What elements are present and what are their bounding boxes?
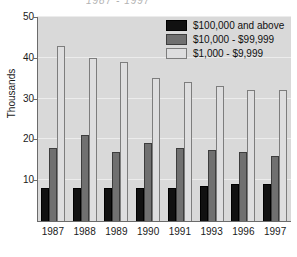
bar-group — [136, 17, 160, 221]
bar[interactable] — [239, 152, 247, 221]
y-tick-label: 10 — [8, 175, 34, 185]
bar[interactable] — [168, 188, 176, 221]
bar-group — [41, 17, 65, 221]
x-tick-label: 1993 — [197, 226, 227, 237]
legend-item[interactable]: $10,000 - $99,999 — [166, 34, 284, 45]
legend-label: $100,000 and above — [193, 20, 284, 31]
legend-swatch — [166, 20, 187, 31]
legend-swatch — [166, 34, 187, 45]
y-tick-mark — [33, 139, 37, 140]
bar-chart-figure: 1987 - 1997 1020304050 Thousands 1987198… — [0, 0, 297, 257]
bar[interactable] — [120, 62, 128, 221]
legend-swatch — [166, 48, 187, 59]
y-tick-mark — [33, 58, 37, 59]
x-axis-line — [37, 221, 291, 222]
y-tick-mark — [33, 180, 37, 181]
x-axis-ticks: 19871988198919901991199319961997 — [37, 226, 291, 237]
bar[interactable] — [279, 90, 287, 221]
bar[interactable] — [89, 58, 97, 221]
bar-group — [73, 17, 97, 221]
legend-label: $1,000 - $9,999 — [193, 48, 263, 59]
x-tick-label: 1987 — [38, 226, 68, 237]
bar[interactable] — [216, 86, 224, 221]
x-tick-label: 1989 — [101, 226, 131, 237]
x-tick-label: 1997 — [260, 226, 290, 237]
bar[interactable] — [73, 188, 81, 221]
bar[interactable] — [200, 186, 208, 221]
bar[interactable] — [57, 46, 65, 221]
bar[interactable] — [184, 82, 192, 221]
bar[interactable] — [49, 148, 57, 221]
bar[interactable] — [271, 156, 279, 221]
bar[interactable] — [112, 152, 120, 221]
bar[interactable] — [263, 184, 271, 221]
bar[interactable] — [136, 188, 144, 221]
bar[interactable] — [104, 188, 112, 221]
y-tick-mark — [33, 17, 37, 18]
bar[interactable] — [176, 148, 184, 221]
y-axis-line — [37, 17, 38, 222]
y-tick-label: 20 — [8, 134, 34, 144]
legend: $100,000 and above$10,000 - $99,999$1,00… — [166, 20, 284, 59]
bar[interactable] — [152, 78, 160, 221]
bar[interactable] — [81, 135, 89, 221]
x-tick-label: 1991 — [165, 226, 195, 237]
clipped-title-remnant: 1987 - 1997 — [86, 0, 216, 4]
bar[interactable] — [208, 150, 216, 221]
y-axis-title: Thousands — [6, 54, 17, 134]
x-tick-label: 1988 — [70, 226, 100, 237]
y-tick-mark — [33, 99, 37, 100]
y-tick-label: 50 — [8, 12, 34, 22]
bar[interactable] — [231, 184, 239, 221]
bar[interactable] — [247, 90, 255, 221]
bar[interactable] — [41, 188, 49, 221]
x-tick-label: 1996 — [228, 226, 258, 237]
x-tick-label: 1990 — [133, 226, 163, 237]
bar-group — [104, 17, 128, 221]
bar[interactable] — [144, 143, 152, 221]
legend-item[interactable]: $1,000 - $9,999 — [166, 48, 284, 59]
legend-label: $10,000 - $99,999 — [193, 34, 274, 45]
legend-item[interactable]: $100,000 and above — [166, 20, 284, 31]
